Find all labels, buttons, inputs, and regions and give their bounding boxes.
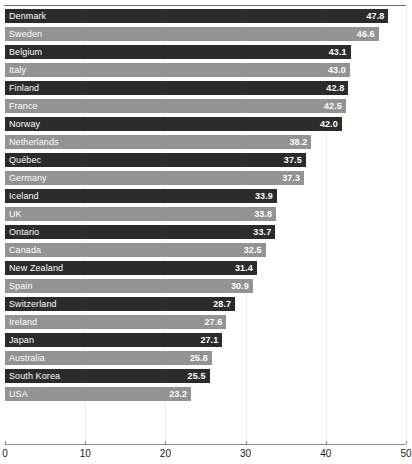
bar-category-label: Netherlands [5,138,59,147]
bar-value-label: 23.2 [169,390,191,399]
bar-row: Japan27.1 [0,332,410,350]
bar[interactable]: Japan27.1 [5,333,222,347]
bar-row: Finland42.8 [0,80,410,98]
x-axis-tick-label: 40 [320,448,331,459]
bar-value-label: 37.5 [284,156,306,165]
bar-category-label: Sweden [5,30,42,39]
bar[interactable]: Denmark47.8 [5,9,388,23]
bar[interactable]: UK33.8 [5,207,276,221]
bar-category-label: New Zealand [5,264,63,273]
bar-row: South Korea25.5 [0,368,410,386]
bar-row: Germany37.3 [0,170,410,188]
bar-value-label: 25.8 [190,354,212,363]
bar-category-label: South Korea [5,372,60,381]
bar-value-label: 42.0 [320,120,342,129]
bar-category-label: Norway [5,120,40,129]
bar-value-label: 25.5 [188,372,210,381]
bar-category-label: France [5,102,38,111]
bar-row: Netherlands38.2 [0,134,410,152]
bar[interactable]: Norway42.0 [5,117,342,131]
bar-value-label: 31.4 [235,264,257,273]
bar-value-label: 30.9 [231,282,253,291]
bar[interactable]: Canada32.5 [5,243,266,257]
x-axis-tick-label: 50 [400,448,411,459]
bar-value-label: 33.9 [255,192,277,201]
x-axis-tick-label: 20 [160,448,171,459]
bar-category-label: Iceland [5,192,39,201]
bar-category-label: Finland [5,84,39,93]
bar-row: Ireland27.6 [0,314,410,332]
bar[interactable]: Iceland33.9 [5,189,277,203]
bar-row: Denmark47.8 [0,8,410,26]
bar-row: Norway42.0 [0,116,410,134]
bar-category-label: Belgium [5,48,42,57]
bar[interactable]: Germany37.3 [5,171,304,185]
bar[interactable]: Switzerland28.7 [5,297,235,311]
bar[interactable]: Ontario33.7 [5,225,275,239]
bar-category-label: USA [5,390,28,399]
x-axis-tick [165,441,166,444]
bar-row: Belgium43.1 [0,44,410,62]
bar-value-label: 32.5 [244,246,266,255]
bar-category-label: Switzerland [5,300,57,309]
x-axis-tick [5,441,6,444]
bar-value-label: 43.1 [329,48,351,57]
bar-value-label: 47.8 [366,12,388,21]
bar[interactable]: Finland42.8 [5,81,348,95]
bar-row: Sweden46.6 [0,26,410,44]
top-rule [4,5,406,6]
bar-rows: Denmark47.8Sweden46.6Belgium43.1Italy43.… [0,8,410,404]
bar-row: New Zealand31.4 [0,260,410,278]
bar-row: Australia25.8 [0,350,410,368]
bar-category-label: Denmark [5,12,46,21]
bar-row: France42.5 [0,98,410,116]
bar-row: Iceland33.9 [0,188,410,206]
bar-row: Spain30.9 [0,278,410,296]
bar-value-label: 37.3 [282,174,304,183]
bar-value-label: 33.8 [254,210,276,219]
x-axis-tick-label: 0 [2,448,8,459]
bar-row: Québec37.5 [0,152,410,170]
bar-row: Ontario33.7 [0,224,410,242]
x-axis-tick [406,441,407,444]
bar-category-label: Ireland [5,318,37,327]
bar-row: USA23.2 [0,386,410,404]
bar-value-label: 38.2 [289,138,311,147]
bar[interactable]: Ireland27.6 [5,315,226,329]
bar[interactable]: South Korea25.5 [5,369,210,383]
x-axis-tick-label: 30 [240,448,251,459]
bar-row: UK33.8 [0,206,410,224]
bar[interactable]: New Zealand31.4 [5,261,257,275]
bar-row: Italy43.0 [0,62,410,80]
bar[interactable]: Québec37.5 [5,153,306,167]
bar[interactable]: Netherlands38.2 [5,135,311,149]
bar-row: Canada32.5 [0,242,410,260]
bar-value-label: 33.7 [253,228,275,237]
bar[interactable]: Belgium43.1 [5,45,351,59]
x-axis-tick [85,441,86,444]
x-axis-line [5,444,406,445]
bar[interactable]: France42.5 [5,99,346,113]
bar[interactable]: Australia25.8 [5,351,212,365]
bar-value-label: 42.5 [324,102,346,111]
bar-category-label: Ontario [5,228,39,237]
bar-category-label: Québec [5,156,41,165]
bar-row: Switzerland28.7 [0,296,410,314]
bar-value-label: 42.8 [326,84,348,93]
bar[interactable]: Sweden46.6 [5,27,379,41]
bar-category-label: Spain [5,282,33,291]
bar[interactable]: USA23.2 [5,387,191,401]
bar-category-label: UK [5,210,22,219]
x-axis-tick [326,441,327,444]
bar-category-label: Australia [5,354,45,363]
bar-value-label: 28.7 [213,300,235,309]
bar-category-label: Japan [5,336,34,345]
bar-value-label: 27.6 [204,318,226,327]
x-axis-tick [246,441,247,444]
bar[interactable]: Spain30.9 [5,279,253,293]
bar-category-label: Germany [5,174,47,183]
plot-area: Denmark47.8Sweden46.6Belgium43.1Italy43.… [0,8,410,440]
bar[interactable]: Italy43.0 [5,63,350,77]
x-axis-tick-label: 10 [80,448,91,459]
